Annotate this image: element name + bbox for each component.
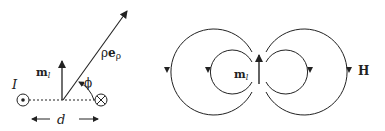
- field-line-inner-left: [210, 50, 252, 94]
- distance-label: d: [57, 112, 65, 127]
- field-direction-arrows: [164, 67, 352, 73]
- field-line-inner-right: [266, 50, 308, 94]
- current-label: I: [11, 77, 18, 92]
- dipole-moment-label: ml: [234, 68, 249, 82]
- field-label: H: [358, 64, 369, 78]
- left-panel: I ml ρeρ ϕ d: [11, 11, 127, 127]
- angle-label: ϕ: [84, 76, 92, 90]
- arrow-down-icon: [164, 67, 170, 73]
- moment-label: ml: [36, 66, 51, 80]
- current-out-icon: [17, 94, 29, 106]
- diagram-canvas: I ml ρeρ ϕ d ml H: [0, 0, 385, 131]
- position-vector-label: ρeρ: [101, 46, 121, 61]
- current-in-icon: [95, 94, 107, 106]
- field-line-outer-right: [266, 29, 347, 115]
